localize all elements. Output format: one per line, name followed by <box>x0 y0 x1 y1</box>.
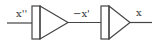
integrator-block-2 <box>101 6 130 39</box>
integrator-chain-diagram: x'' −x' x <box>0 0 159 41</box>
integrator-1-rect <box>32 6 40 39</box>
integrator-block-1 <box>32 6 68 39</box>
intermediate-signal-label: −x' <box>73 8 90 19</box>
input-signal-label: x'' <box>16 8 27 19</box>
integrator-2-triangle <box>109 6 130 39</box>
integrator-1-triangle <box>40 6 68 39</box>
integrator-2-rect <box>101 6 109 39</box>
output-signal-label: x <box>136 7 142 18</box>
